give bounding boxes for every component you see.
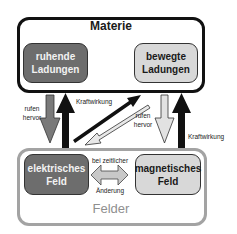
- edge-label-left-produces: rufen hervor: [20, 104, 44, 122]
- edge-label-left-force: Kraftwirkung: [76, 97, 112, 106]
- edge-label-time-change-bottom: Änderung: [88, 186, 132, 195]
- edge-label-right-force: Kraftwirkung: [188, 132, 224, 141]
- double-arrow-icon: [91, 165, 128, 185]
- edge-label-diagonal-produces: rufen hervor: [130, 111, 156, 129]
- arrow-down-icon: [155, 95, 174, 143]
- edge-label-time-change-top: bei zeitlicher: [88, 156, 132, 165]
